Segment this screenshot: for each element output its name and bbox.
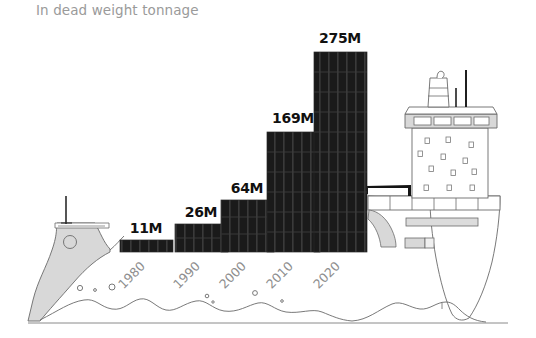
bar-2010 [267, 132, 320, 252]
value-label-2020: 275M [319, 30, 361, 46]
funnel [428, 78, 449, 107]
bar-1980 [120, 240, 173, 252]
hull-panel [406, 218, 478, 226]
stern-hull [368, 196, 500, 320]
value-label-1990: 26M [185, 204, 218, 220]
ship-illustration [0, 0, 536, 338]
value-label-2010: 169M [272, 110, 314, 126]
hull-box [405, 238, 425, 248]
bow-porthole [64, 236, 77, 249]
bar-2000 [221, 200, 274, 252]
bar-2020 [314, 52, 367, 252]
value-label-2000: 64M [231, 180, 264, 196]
bridge-roof [405, 107, 497, 114]
value-label-1980: 11M [130, 220, 163, 236]
waterline-foam-left [40, 299, 352, 321]
infographic-canvas: In dead weight tonnage 11M 26M 64M 169M … [0, 0, 536, 338]
stern-ramp [368, 210, 396, 247]
crane-arm [366, 185, 411, 196]
chart-subtitle: In dead weight tonnage [36, 2, 199, 18]
bow-deck [55, 223, 109, 228]
funnel-hook [437, 71, 444, 78]
bar-1990 [175, 224, 228, 252]
